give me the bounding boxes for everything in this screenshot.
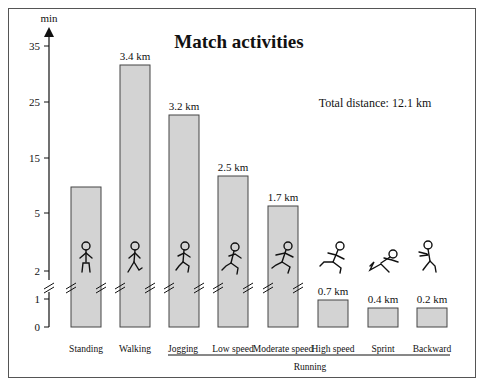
distance-low-speed: 2.5 km xyxy=(218,161,249,173)
sprint-figure-icon xyxy=(370,250,398,272)
category-moderate-speed: Moderate speed xyxy=(253,344,314,354)
category-sprint: Sprint xyxy=(371,344,395,354)
category-walking: Walking xyxy=(119,344,151,354)
distance-moderate-speed: 1.7 km xyxy=(268,191,299,203)
chart-svg: Match activities Total distance: 12.1 km… xyxy=(0,0,485,390)
distance-high-speed: 0.7 km xyxy=(318,285,349,297)
y-tick-25: 25 xyxy=(29,96,41,108)
backward-running-figure-icon xyxy=(419,241,436,272)
bar-low-speed xyxy=(218,176,248,327)
bar-backward xyxy=(417,308,447,327)
running-group-label: Running xyxy=(294,362,327,372)
category-standing: Standing xyxy=(69,344,103,354)
bar-moderate-speed xyxy=(268,206,298,327)
bar-sprint xyxy=(368,308,398,327)
distance-jogging: 3.2 km xyxy=(169,100,200,112)
distance-backward: 0.2 km xyxy=(417,293,448,305)
y-axis-label: min xyxy=(40,12,58,24)
category-jogging: Jogging xyxy=(168,344,198,354)
y-tick-35: 35 xyxy=(29,40,41,52)
axis-break-icon xyxy=(44,283,54,293)
category-high-speed: High speed xyxy=(311,344,354,354)
distance-sprint: 0.4 km xyxy=(368,293,399,305)
category-backward: Backward xyxy=(413,344,452,354)
category-low-speed: Low speed xyxy=(212,344,254,354)
y-tick-5: 5 xyxy=(35,207,41,219)
bar-high-speed xyxy=(318,300,348,327)
high-speed-running-figure-icon xyxy=(320,242,344,273)
total-distance-annotation: Total distance: 12.1 km xyxy=(319,96,432,110)
y-tick-2: 2 xyxy=(35,265,41,277)
chart-title: Match activities xyxy=(174,31,303,52)
y-tick-1: 1 xyxy=(35,293,41,305)
y-tick-15: 15 xyxy=(29,152,41,164)
y-tick-0: 0 xyxy=(35,321,41,333)
distance-walking: 3.4 km xyxy=(120,50,151,62)
y-axis: min 35 25 15 5 2 1 0 xyxy=(29,12,58,333)
bar-jogging xyxy=(169,115,199,327)
